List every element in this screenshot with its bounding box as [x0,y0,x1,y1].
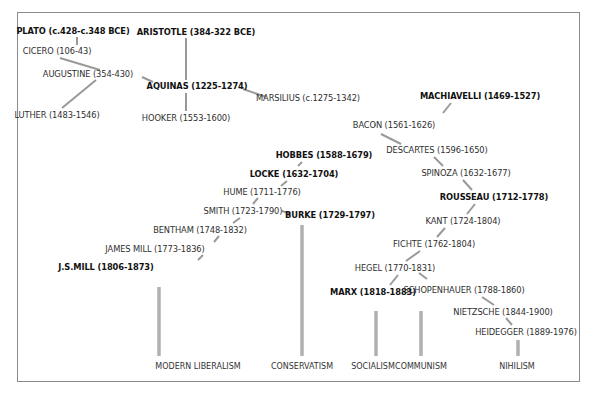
link-fichte-hegel [406,251,420,261]
outcome-socialism: SOCIALISM [351,362,395,372]
thinker-kant: KANT (1724-1804) [426,216,501,226]
thinker-hobbes: HOBBES (1588-1679) [276,150,373,160]
thinker-schopenhauer: SCHOPENHAUER (1788-1860) [403,285,524,295]
thinker-hooker: HOOKER (1553-1600) [142,113,230,123]
thinker-aquinas: AQUINAS (1225-1274) [147,81,248,91]
thinker-locke: LOCKE (1632-1704) [250,169,339,179]
thinker-aristotle: ARISTOTLE (384-322 BCE) [137,27,255,37]
outcome-modern-liberalism: MODERN LIBERALISM [155,362,240,372]
link-nietzsche-heidegger [506,318,512,325]
link-hobbes-locke [298,162,302,166]
thinker-plato: PLATO (c.428-c.348 BCE) [16,26,129,36]
link-jamesmill-jsmill [198,255,203,260]
link-descartes-spinoza [434,157,443,166]
link-locke-hume [281,181,287,186]
thinker-smith: SMITH (1723-1790) [204,206,283,216]
thinker-nietzsche: NIETZSCHE (1844-1900) [453,307,552,317]
link-kant-fichte [437,228,445,237]
thinker-jsmill: J.S.MILL (1806-1873) [58,262,153,272]
outcome-conservatism: CONSERVATISM [271,362,333,372]
link-rousseau-kant [467,204,475,214]
link-hume-smith [253,198,258,204]
thinker-bacon: BACON (1561-1626) [353,120,435,130]
outcome-communism: COMMUNISM [395,362,447,372]
outcome-nihilism: NIHILISM [499,362,535,372]
thinker-bentham: BENTHAM (1748-1832) [153,225,247,235]
thinker-heidegger: HEIDEGGER (1889-1976) [475,327,577,337]
thinker-hegel: HEGEL (1770-1831) [355,263,435,273]
link-spinoza-rousseau [463,180,472,190]
link-augustine-luther [62,80,96,108]
link-hegel-marx [390,275,398,285]
link-machiavelli-bacon [443,103,451,113]
thinker-burke: BURKE (1729-1797) [285,210,375,220]
thinker-descartes: DESCARTES (1596-1650) [386,145,487,155]
thinker-jamesmill: JAMES MILL (1773-1836) [105,244,204,254]
thinker-cicero: CICERO (106-43) [23,46,92,56]
link-bentham-jamesmill [214,236,219,242]
thinker-augustine: AUGUSTINE (354-430) [43,69,133,79]
thinker-rousseau: ROUSSEAU (1712-1778) [440,192,548,202]
thinker-hume: HUME (1711-1776) [223,187,300,197]
link-hegel-schopenhauer [419,273,427,279]
thinker-fichte: FICHTE (1762-1804) [393,239,475,249]
link-bacon-descartes [381,134,401,144]
thinker-luther: LUTHER (1483-1546) [14,110,99,120]
thinker-marsilius: MARSILIUS (c.1275-1342) [256,93,360,103]
thinker-machiavelli: MACHIAVELLI (1469-1527) [420,91,540,101]
thinker-spinoza: SPINOZA (1632-1677) [421,168,510,178]
link-smith-bentham [233,218,240,223]
link-schopenhauer-nietzsche [482,297,494,305]
